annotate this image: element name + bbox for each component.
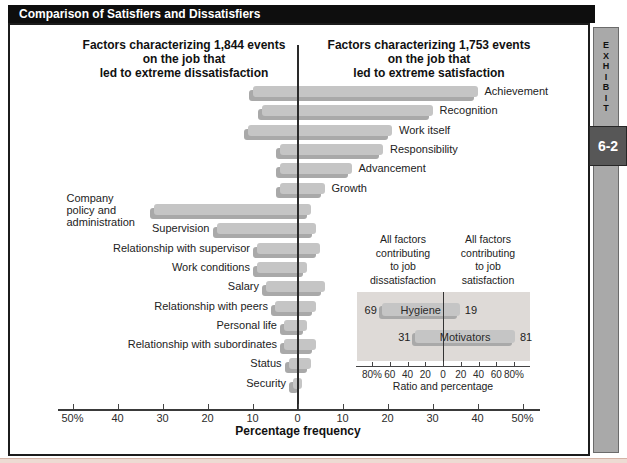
axis-tick-label: 40 <box>103 412 133 424</box>
factor-label: Work conditions <box>172 262 250 274</box>
inset-x-axis-title: Ratio and percentage <box>353 380 533 392</box>
factor-bar <box>257 262 307 273</box>
factor-bar <box>248 125 392 136</box>
axis-tick <box>208 404 209 409</box>
factor-label: Salary <box>228 281 259 293</box>
factor-label: Relationship with supervisor <box>113 243 250 255</box>
axis-tick-label: 10 <box>328 412 358 424</box>
inset-bar-label: Motivators <box>415 331 514 343</box>
zero-axis-line <box>297 45 299 409</box>
axis-tick <box>298 404 299 409</box>
figure-title: Comparison of Satisfiers and Dissatisfie… <box>19 7 260 21</box>
inset-dissatisfaction-value: 69 <box>365 304 377 316</box>
axis-tick <box>163 404 164 409</box>
factor-label: Recognition <box>440 105 498 117</box>
factor-bar <box>275 301 316 312</box>
inset-satisfaction-value: 81 <box>520 331 532 343</box>
axis-tick <box>253 404 254 409</box>
inset-bar-label: Hygiene <box>382 304 460 316</box>
factor-label: Company policy and administration <box>67 192 147 228</box>
inset-satisfaction-header: All factors contributing to job satisfac… <box>428 233 548 287</box>
inset-axis-tick <box>408 362 409 366</box>
axis-tick <box>73 404 74 409</box>
exhibit-letter: T <box>594 103 618 114</box>
axis-tick-label: 50% <box>508 412 538 424</box>
factor-label: Relationship with subordinates <box>128 339 277 351</box>
exhibit-letter: E <box>594 40 618 51</box>
axis-tick <box>478 404 479 409</box>
axis-tick-label: 30 <box>418 412 448 424</box>
axis-tick-label: 10 <box>238 412 268 424</box>
axis-tick <box>433 404 434 409</box>
inset-axis-tick-label: 80% <box>501 369 527 380</box>
factor-label: Personal life <box>216 320 277 332</box>
factor-bar <box>253 86 478 97</box>
factor-label: Status <box>250 358 281 370</box>
inset-axis-tick <box>461 362 462 366</box>
exhibit-letter: I <box>594 93 618 104</box>
factor-bar <box>257 243 320 254</box>
factor-bar <box>289 358 312 369</box>
axis-tick-label: 50% <box>58 412 88 424</box>
figure-title-bar: Comparison of Satisfiers and Dissatisfie… <box>8 5 595 23</box>
axis-tick <box>388 404 389 409</box>
exhibit-number-badge: 6-2 <box>589 126 627 166</box>
factor-label: Security <box>246 378 286 390</box>
factor-label: Work itself <box>399 125 450 137</box>
factor-bar <box>280 163 352 174</box>
factor-bar <box>262 105 433 116</box>
inset-axis-tick <box>390 362 391 366</box>
factor-label: Responsibility <box>390 144 458 156</box>
factor-bar <box>154 204 312 215</box>
inset-axis-tick <box>425 362 426 366</box>
factor-bar <box>280 144 384 155</box>
exhibit-tab: EXHIBIT <box>593 27 619 453</box>
axis-tick <box>523 404 524 409</box>
factor-bar <box>217 223 316 234</box>
inset-axis-tick <box>496 362 497 366</box>
axis-tick <box>343 404 344 409</box>
axis-tick-label: 20 <box>193 412 223 424</box>
inset-dissatisfaction-value: 31 <box>398 331 410 343</box>
factor-label: Advancement <box>359 163 426 175</box>
dissatisfaction-column-header: Factors characterizing 1,844 events on t… <box>53 38 315 80</box>
inset-axis-tick <box>443 362 444 366</box>
page-bottom-edge <box>0 458 627 463</box>
factor-bar <box>284 339 316 350</box>
exhibit-letter: H <box>594 61 618 72</box>
exhibit-letter: I <box>594 72 618 83</box>
axis-tick-label: 40 <box>463 412 493 424</box>
satisfaction-column-header: Factors characterizing 1,753 events on t… <box>295 38 563 80</box>
factor-bar <box>280 183 325 194</box>
factor-label: Supervision <box>152 223 209 235</box>
inset-axis-tick <box>514 362 515 366</box>
textbook-figure-page: Comparison of Satisfiers and Dissatisfie… <box>0 0 627 463</box>
factor-label: Relationship with peers <box>154 301 268 313</box>
exhibit-letter: X <box>594 51 618 62</box>
inset-satisfaction-value: 19 <box>465 304 477 316</box>
inset-axis-tick <box>372 362 373 366</box>
inset-x-axis <box>356 366 530 367</box>
axis-tick-label: 20 <box>373 412 403 424</box>
axis-tick-label: 30 <box>148 412 178 424</box>
factor-bar <box>266 281 325 292</box>
factor-label: Achievement <box>485 86 549 98</box>
x-axis-title: Percentage frequency <box>198 424 398 438</box>
exhibit-letter: B <box>594 82 618 93</box>
axis-tick <box>118 404 119 409</box>
axis-tick-label: 0 <box>283 412 313 424</box>
x-axis <box>58 409 540 411</box>
factor-label: Growth <box>332 183 367 195</box>
factor-bar <box>284 320 307 331</box>
inset-axis-tick <box>479 362 480 366</box>
exhibit-number: 6-2 <box>598 138 618 154</box>
